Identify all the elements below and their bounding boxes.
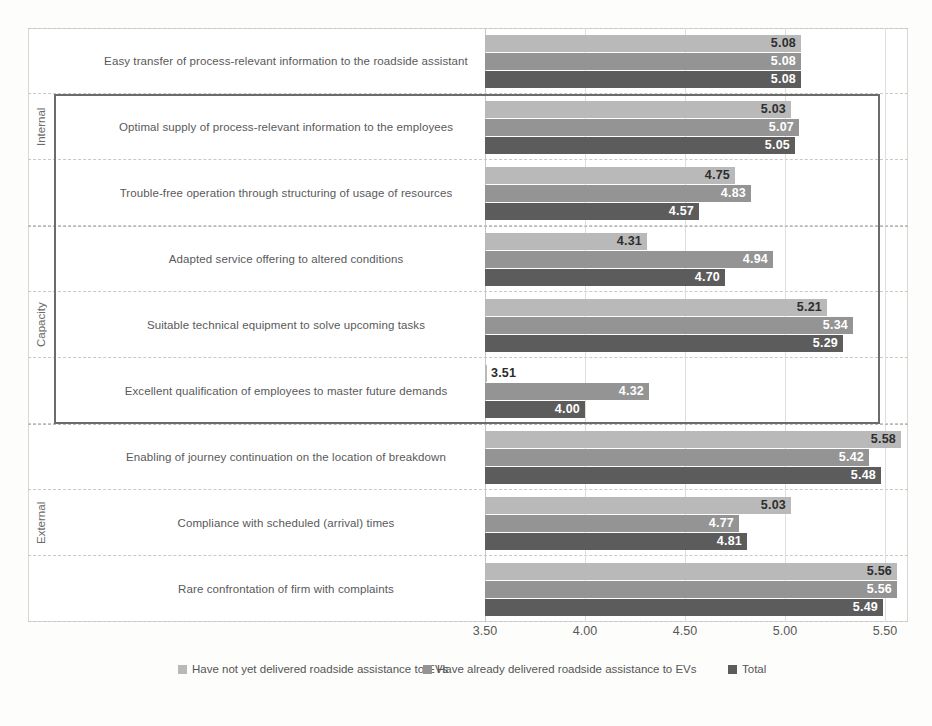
bar: 4.81 — [485, 533, 747, 550]
bar-value-label: 5.08 — [771, 36, 796, 50]
bar-value-label: 5.56 — [867, 564, 892, 578]
legend-item[interactable]: Have not yet delivered roadside assistan… — [178, 663, 448, 675]
bar-value-label: 5.03 — [761, 102, 786, 116]
legend-swatch-icon — [728, 665, 737, 674]
bar-value-label: 5.08 — [771, 54, 796, 68]
bar: 5.58 — [485, 431, 901, 448]
bar-value-label: 3.51 — [491, 366, 516, 380]
bar-value-label: 5.03 — [761, 498, 786, 512]
legend-label: Have not yet delivered roadside assistan… — [192, 663, 448, 675]
bar-value-label: 4.83 — [721, 186, 746, 200]
legend-item[interactable]: Total — [728, 663, 766, 675]
bar: 5.08 — [485, 35, 801, 52]
bar-value-label: 5.58 — [871, 432, 896, 446]
bar: 5.08 — [485, 53, 801, 70]
x-tick-label: 4.50 — [673, 624, 697, 638]
bar: 4.70 — [485, 269, 725, 286]
bar-value-label: 4.31 — [617, 234, 642, 248]
bar-value-label: 4.57 — [669, 204, 694, 218]
bar: 5.42 — [485, 449, 869, 466]
bar-value-label: 4.75 — [705, 168, 730, 182]
bar-value-label: 4.70 — [695, 270, 720, 284]
bar-value-label: 5.42 — [839, 450, 864, 464]
bar-value-label: 5.56 — [867, 582, 892, 596]
bar: 4.77 — [485, 515, 739, 532]
legend-swatch-icon — [423, 665, 432, 674]
bar: 5.05 — [485, 137, 795, 154]
figure-canvas: Easy transfer of process-relevant inform… — [0, 0, 932, 726]
bar: 4.00 — [485, 401, 585, 418]
bar: 5.07 — [485, 119, 799, 136]
x-tick-label: 4.00 — [573, 624, 597, 638]
bar-value-label: 5.21 — [797, 300, 822, 314]
x-tick-label: 3.50 — [473, 624, 497, 638]
legend-item[interactable]: Have already delivered roadside assistan… — [423, 663, 697, 675]
bar: 4.57 — [485, 203, 699, 220]
bar-value-label: 5.29 — [813, 336, 838, 350]
bar-value-label: 5.49 — [853, 600, 878, 614]
group-separator — [28, 226, 908, 227]
bar-value-label: 4.00 — [555, 402, 580, 416]
bar: 5.48 — [485, 467, 881, 484]
chart-legend: Have not yet delivered roadside assistan… — [28, 658, 908, 680]
bar: 4.32 — [485, 383, 649, 400]
group-label: Internal — [30, 28, 52, 226]
group-label: External — [30, 424, 52, 622]
bar-value-label: 4.94 — [743, 252, 768, 266]
bar: 5.08 — [485, 71, 801, 88]
bar: 4.75 — [485, 167, 735, 184]
bar: 5.56 — [485, 563, 897, 580]
group-label: Capacity — [30, 226, 52, 424]
bar: 4.94 — [485, 251, 773, 268]
legend-label: Total — [742, 663, 766, 675]
bar: 5.49 — [485, 599, 883, 616]
bar: 5.03 — [485, 101, 791, 118]
bar: 5.34 — [485, 317, 853, 334]
bar-value-label: 4.32 — [619, 384, 644, 398]
bar-value-label: 5.07 — [769, 120, 794, 134]
bar: 3.51 — [485, 365, 487, 382]
bar-value-label: 5.08 — [771, 72, 796, 86]
x-tick-label: 5.00 — [773, 624, 797, 638]
x-axis-ticks: 3.504.004.505.005.50 — [28, 624, 908, 644]
bar-value-label: 4.77 — [709, 516, 734, 530]
bar: 5.03 — [485, 497, 791, 514]
x-tick-label: 5.50 — [873, 624, 897, 638]
bar-value-label: 4.81 — [717, 534, 742, 548]
bar: 5.29 — [485, 335, 843, 352]
legend-label: Have already delivered roadside assistan… — [437, 663, 697, 675]
bar: 4.31 — [485, 233, 647, 250]
bar: 5.56 — [485, 581, 897, 598]
bar: 5.21 — [485, 299, 827, 316]
legend-swatch-icon — [178, 665, 187, 674]
group-separator — [28, 424, 908, 425]
bars-layer: 5.085.085.085.035.075.054.754.834.574.31… — [28, 28, 908, 622]
bar-value-label: 5.05 — [765, 138, 790, 152]
bar: 4.83 — [485, 185, 751, 202]
bar-value-label: 5.34 — [823, 318, 848, 332]
bar-value-label: 5.48 — [851, 468, 876, 482]
